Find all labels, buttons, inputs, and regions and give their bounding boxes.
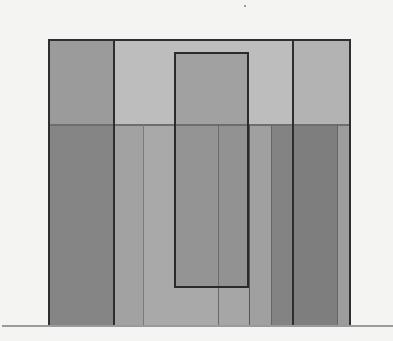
vertical-thin-line-a [143, 125, 144, 326]
lower-mid-panel-a [114, 125, 144, 326]
lower-left-panel [48, 125, 114, 326]
lower-right-dark-panel-b [293, 125, 338, 326]
vertical-thin-line-e [337, 125, 338, 326]
vertical-divider-right [292, 39, 294, 326]
baseline [2, 325, 393, 327]
vertical-thin-line-d [271, 125, 272, 326]
upper-left-panel [48, 39, 114, 125]
scan-speck [244, 5, 246, 7]
vertical-divider-left [113, 39, 115, 326]
upper-right-panel [293, 39, 351, 125]
lower-right-dark-panel-a [271, 125, 293, 326]
lower-right-light-panel [249, 125, 271, 326]
lower-far-right-panel [338, 125, 351, 326]
inner-overlay-rectangle [174, 52, 249, 288]
vertical-thin-line-c [249, 125, 250, 326]
